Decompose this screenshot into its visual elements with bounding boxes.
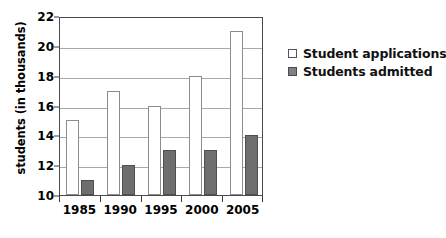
legend-label: Student applications xyxy=(303,46,446,61)
legend-label: Students admitted xyxy=(303,64,433,79)
bar-2000-applications xyxy=(189,76,202,195)
x-tick-label-2005: 2005 xyxy=(226,203,259,217)
bar-2000-admitted xyxy=(204,150,217,195)
y-tick-label-14: 14 xyxy=(26,129,54,143)
x-tick-mark-2 xyxy=(141,196,142,202)
legend-swatch-icon-admitted xyxy=(288,67,297,76)
bar-group-1990 xyxy=(101,18,142,195)
legend-item-admitted: Students admitted xyxy=(288,64,446,79)
x-tick-label-1985: 1985 xyxy=(63,203,96,217)
y-tick-label-18: 18 xyxy=(26,70,54,84)
x-tick-mark-4 xyxy=(222,196,223,202)
bar-group-2000 xyxy=(182,18,223,195)
y-tick-label-16: 16 xyxy=(26,100,54,114)
bar-group-2005 xyxy=(223,18,264,195)
bar-1995-admitted xyxy=(163,150,176,195)
y-tick-label-12: 12 xyxy=(26,159,54,173)
bar-2005-admitted xyxy=(245,135,258,195)
bar-1990-applications xyxy=(107,91,120,195)
y-tick-label-22: 22 xyxy=(26,10,54,24)
bars-layer xyxy=(60,18,262,195)
plot-area xyxy=(59,17,263,196)
bar-group-1985 xyxy=(60,18,101,195)
y-tick-label-20: 20 xyxy=(26,40,54,54)
bar-1995-applications xyxy=(148,106,161,196)
legend-item-applications: Student applications xyxy=(288,46,446,61)
legend-swatch-icon-applications xyxy=(288,49,297,58)
bar-2005-applications xyxy=(230,31,243,195)
x-tick-label-1990: 1990 xyxy=(103,203,136,217)
x-tick-mark-5 xyxy=(262,196,263,202)
x-tick-mark-1 xyxy=(100,196,101,202)
bar-1990-admitted xyxy=(122,165,135,195)
x-tick-mark-3 xyxy=(181,196,182,202)
bar-1985-admitted xyxy=(81,180,94,195)
chart-legend: Student applicationsStudents admitted xyxy=(288,46,446,79)
x-tick-label-1995: 1995 xyxy=(144,203,177,217)
bar-1985-applications xyxy=(66,120,79,195)
y-axis-tick-labels: 10121416182022 xyxy=(26,17,54,196)
bar-chart: students (in thousands) 10121416182022 1… xyxy=(0,0,446,238)
x-axis-tick-marks xyxy=(59,196,263,202)
x-tick-mark-0 xyxy=(59,196,60,202)
bar-group-1995 xyxy=(142,18,183,195)
y-tick-label-10: 10 xyxy=(26,189,54,203)
x-axis-tick-labels: 19851990199520002005 xyxy=(59,203,263,223)
x-tick-label-2000: 2000 xyxy=(185,203,218,217)
